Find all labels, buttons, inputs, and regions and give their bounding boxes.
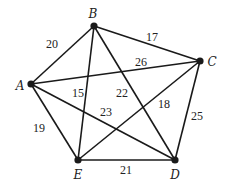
edge-weights-layer: 20172615222318192521 [33,30,203,177]
edge-a-d [31,84,175,160]
edge-a-b [31,26,94,84]
node-label-d: D [169,168,180,182]
edge-weight-c-d: 25 [191,109,203,123]
edge-weight-a-b: 20 [46,37,58,51]
node-label-b: B [88,7,98,21]
edge-weight-a-e: 19 [33,121,45,135]
node-e-dot-icon [74,156,81,163]
edge-weight-b-c: 17 [146,30,158,44]
node-label-c: C [207,55,216,69]
edge-weight-a-c: 26 [135,55,147,69]
node-label-e: E [73,168,83,182]
node-label-a: A [15,79,25,93]
edge-weight-b-d: 22 [116,86,128,100]
weighted-graph-diagram: 20172615222318192521 ABCDE [0,0,225,184]
edge-weight-b-e: 15 [72,86,84,100]
node-d-dot-icon [171,156,178,163]
node-b-dot-icon [90,22,97,29]
node-c-dot-icon [196,57,203,64]
edge-weight-c-e: 18 [158,97,170,111]
edge-weight-a-d: 23 [100,105,112,119]
edge-weight-e-d: 21 [120,163,132,177]
node-a-dot-icon [27,80,34,87]
edge-b-d [94,26,175,160]
